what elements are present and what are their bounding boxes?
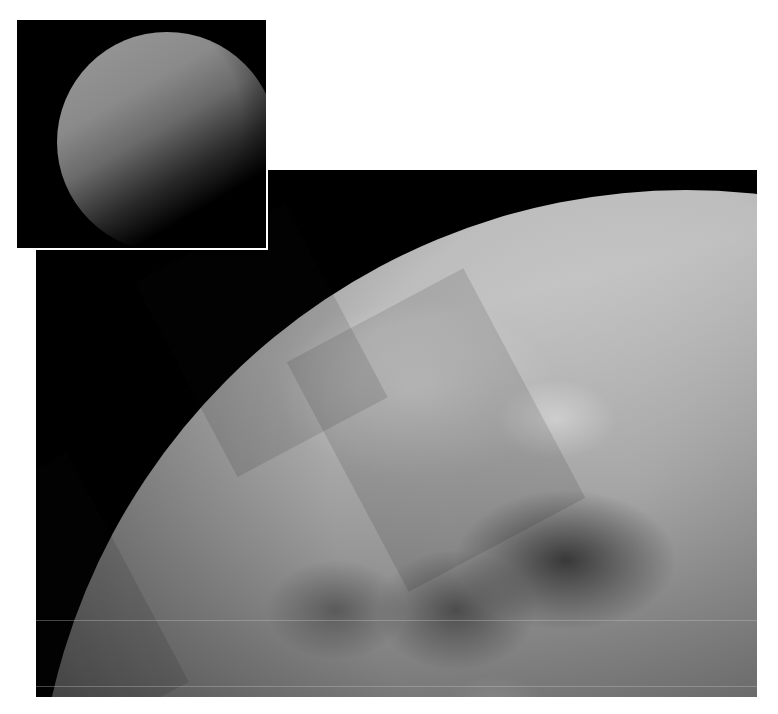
- scan-artifact: [36, 620, 757, 621]
- limb-shading: [57, 32, 268, 250]
- inset-image: Visible-light view of Titan showing hazy…: [15, 18, 268, 250]
- scan-artifact: [36, 686, 757, 687]
- inset-image-alt: Visible-light view of Titan showing hazy…: [17, 20, 18, 21]
